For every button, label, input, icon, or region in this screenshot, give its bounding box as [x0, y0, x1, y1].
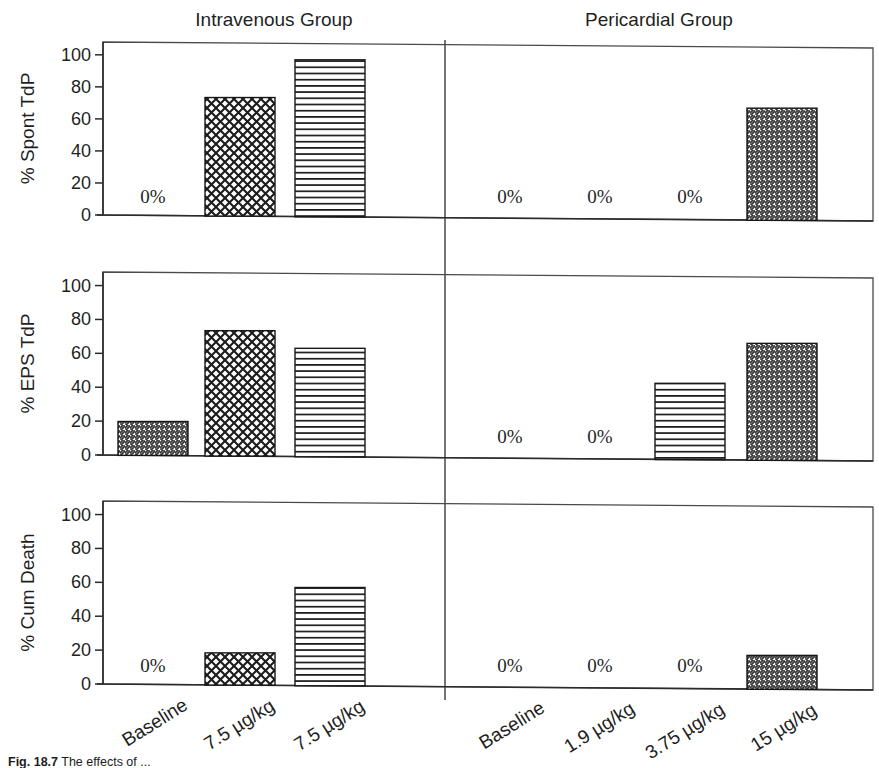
bar-crosshatch[interactable] [205, 653, 275, 685]
figure-caption-text: The effects of ... [61, 755, 150, 768]
y-axis-title: % Cum Death [17, 533, 38, 651]
y-axis-title: % EPS TdP [17, 314, 38, 414]
bar-horizontal[interactable] [295, 348, 365, 456]
y-tick-label: 80 [71, 538, 91, 558]
y-tick-label: 100 [61, 505, 91, 525]
bar-diagonal[interactable] [747, 655, 817, 689]
y-tick-label: 100 [61, 276, 91, 296]
y-tick-label: 0 [81, 205, 91, 225]
zero-value-label: 0% [677, 186, 703, 207]
y-tick-label: 100 [61, 45, 91, 65]
zero-value-label: 0% [140, 655, 166, 676]
group-title-pericardial: Pericardial Group [585, 9, 733, 30]
x-axis-category-label: 15 µg/kg [747, 699, 820, 756]
bar-horizontal[interactable] [295, 60, 365, 217]
figure-caption: Fig. 18.7 The effects of ... [8, 755, 868, 768]
bar-chart-svg: Intravenous GroupPericardial Group020406… [0, 0, 879, 768]
y-tick-label: 0 [81, 674, 91, 694]
y-tick-label: 40 [71, 606, 91, 626]
y-tick-label: 20 [71, 411, 91, 431]
bar-horizontal[interactable] [655, 383, 725, 459]
y-tick-label: 60 [71, 572, 91, 592]
figure-container: Intravenous GroupPericardial Group020406… [0, 0, 879, 768]
y-tick-label: 80 [71, 77, 91, 97]
bar-crosshatch[interactable] [205, 98, 275, 217]
y-tick-label: 20 [71, 173, 91, 193]
x-axis-category-label: 7.5 µg/kg [200, 695, 278, 754]
y-tick-label: 0 [81, 445, 91, 465]
zero-value-label: 0% [587, 426, 613, 447]
y-tick-label: 40 [71, 141, 91, 161]
zero-value-label: 0% [497, 426, 523, 447]
y-tick-label: 80 [71, 309, 91, 329]
y-tick-label: 20 [71, 640, 91, 660]
zero-value-label: 0% [587, 655, 613, 676]
y-tick-label: 60 [71, 109, 91, 129]
x-axis-category-label: Baseline [475, 697, 548, 753]
y-axis-title: % Spont TdP [17, 73, 38, 185]
bar-horizontal[interactable] [295, 587, 365, 685]
bar-crosshatch[interactable] [205, 331, 275, 456]
zero-value-label: 0% [677, 655, 703, 676]
zero-value-label: 0% [497, 186, 523, 207]
zero-value-label: 0% [587, 186, 613, 207]
bar-diagonal[interactable] [118, 422, 188, 456]
zero-value-label: 0% [497, 655, 523, 676]
x-axis-category-label: Baseline [118, 694, 191, 750]
x-axis-category-label: 1.9 µg/kg [560, 697, 638, 756]
x-axis-category-label: 7.5 µg/kg [290, 695, 368, 754]
bar-diagonal[interactable] [747, 108, 817, 220]
figure-caption-label: Fig. 18.7 [8, 755, 58, 768]
y-tick-label: 40 [71, 377, 91, 397]
bar-diagonal[interactable] [747, 343, 817, 460]
zero-value-label: 0% [140, 186, 166, 207]
x-axis-category-label: 3.75 µg/kg [641, 698, 728, 763]
group-title-intravenous: Intravenous Group [195, 9, 352, 30]
y-tick-label: 60 [71, 343, 91, 363]
